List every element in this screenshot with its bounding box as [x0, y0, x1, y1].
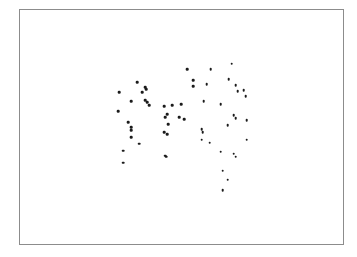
data-point — [130, 129, 133, 132]
data-point — [206, 83, 209, 86]
data-point — [166, 133, 169, 136]
data-point — [245, 139, 248, 142]
data-point — [138, 143, 141, 146]
data-point — [203, 100, 206, 103]
data-point — [234, 117, 237, 120]
data-point — [130, 100, 133, 103]
data-point — [244, 95, 247, 98]
data-point — [167, 123, 170, 126]
data-point — [130, 136, 133, 139]
screenshot-root — [0, 0, 357, 257]
data-point — [127, 121, 130, 124]
data-point — [164, 154, 167, 157]
data-point — [221, 189, 224, 192]
data-point — [183, 118, 186, 121]
data-point — [230, 62, 233, 65]
data-point — [242, 89, 245, 92]
data-point — [201, 139, 204, 142]
data-point — [236, 90, 239, 93]
data-point — [219, 150, 222, 153]
data-point — [122, 161, 125, 164]
plot-frame — [19, 9, 344, 245]
data-point — [221, 169, 224, 172]
data-point — [226, 124, 229, 127]
data-point — [227, 78, 230, 81]
data-point — [245, 119, 248, 122]
data-point — [186, 68, 189, 71]
data-point — [178, 116, 181, 119]
data-point — [234, 155, 237, 158]
data-point — [122, 149, 125, 152]
data-point — [209, 142, 212, 145]
data-point — [118, 91, 121, 94]
data-point — [192, 85, 195, 88]
data-point — [210, 68, 213, 71]
data-point — [234, 84, 237, 87]
data-point — [141, 91, 144, 94]
data-point — [192, 79, 195, 82]
data-point — [148, 104, 151, 107]
plot-area — [20, 10, 343, 244]
data-point — [164, 116, 167, 119]
data-point — [202, 131, 205, 134]
data-point — [219, 103, 222, 106]
data-point — [145, 88, 148, 91]
data-point — [136, 81, 139, 84]
data-point — [163, 105, 166, 108]
data-point — [117, 110, 120, 113]
data-point — [226, 178, 229, 181]
data-point — [171, 104, 174, 107]
data-point — [180, 103, 183, 106]
